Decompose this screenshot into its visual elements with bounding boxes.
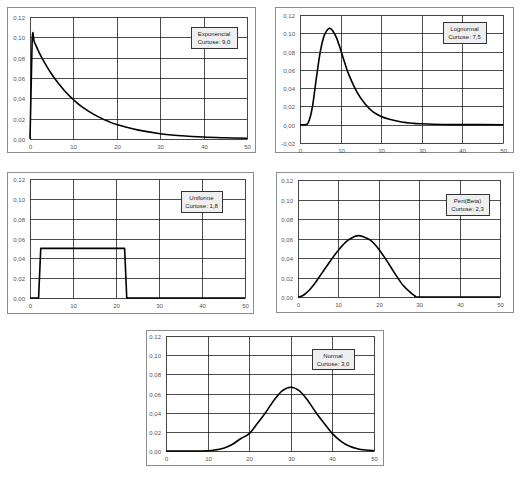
y-tick-label: 0,12 [149, 334, 161, 340]
kurtosis-value: Curtose: 7,5 [448, 34, 481, 40]
x-tick-label: 50 [244, 144, 251, 150]
y-tick-label: 0,08 [281, 217, 293, 223]
y-tick-label: 0,06 [281, 237, 293, 243]
y-tick-label: 0,08 [13, 56, 25, 62]
kurtosis-value: Curtose: 1,8 [185, 203, 218, 209]
y-tick-label: 0,04 [13, 256, 25, 262]
annotation-box: LognormalCurtose: 7,5 [444, 23, 487, 44]
chart-uniforme: 010203040500,000,020,040,060,080,100,12U… [8, 173, 254, 314]
x-tick-label: 30 [156, 303, 163, 309]
x-tick-label: 50 [371, 456, 378, 462]
y-tick-label: 0,10 [13, 197, 25, 203]
y-tick-label: 0,06 [283, 68, 295, 74]
x-tick-label: 20 [246, 456, 253, 462]
y-tick-label: 0,00 [283, 123, 295, 129]
y-tick-label: -0,02 [281, 141, 295, 147]
x-tick-label: 10 [335, 302, 342, 308]
x-tick-label: 50 [497, 302, 504, 308]
y-tick-label: 0,00 [13, 137, 25, 143]
x-tick-label: 50 [500, 148, 507, 154]
x-tick-label: 10 [338, 148, 345, 154]
y-tick-label: 0,06 [149, 392, 161, 398]
annotation-box: Pert(Beta)Curtose: 2,3 [447, 195, 490, 216]
y-tick-label: 0,12 [13, 15, 25, 21]
x-tick-label: 50 [242, 303, 249, 309]
x-tick-label: 40 [329, 456, 336, 462]
y-tick-label: 0,02 [281, 276, 293, 282]
chart-exponencial: 010203040500,000,020,040,060,080,100,12E… [8, 8, 256, 153]
y-tick-label: 0,00 [13, 296, 25, 302]
y-tick-label: 0,04 [281, 256, 293, 262]
y-tick-label: 0,06 [13, 76, 25, 82]
x-tick-label: 20 [114, 144, 121, 150]
y-tick-label: 0,00 [149, 449, 161, 455]
distribution-name: Exponencial [198, 31, 231, 37]
y-tick-label: 0,02 [149, 430, 161, 436]
x-tick-label: 20 [378, 148, 385, 154]
distribution-name: Normal [323, 353, 342, 359]
y-tick-label: 0,06 [13, 237, 25, 243]
x-tick-label: 40 [459, 148, 466, 154]
kurtosis-value: Curtose: 3,0 [317, 361, 350, 367]
distribution-name: Uniforme [189, 195, 214, 201]
y-tick-label: 0,10 [13, 35, 25, 41]
x-tick-label: 10 [205, 456, 212, 462]
y-tick-label: 0,02 [13, 276, 25, 282]
chart-lognormal: 01020304050-0,020,000,020,040,060,080,10… [276, 8, 514, 155]
chart-pert-beta: 010203040500,000,020,040,060,080,100,12P… [277, 173, 514, 313]
x-tick-label: 30 [157, 144, 164, 150]
x-tick-label: 30 [416, 302, 423, 308]
y-tick-label: 0,10 [283, 31, 295, 37]
y-tick-label: 0,08 [149, 372, 161, 378]
distribution-name: Lognormal [450, 26, 478, 32]
x-tick-label: 20 [113, 303, 120, 309]
y-tick-label: 0,12 [281, 178, 293, 184]
y-tick-label: 0,04 [13, 96, 25, 102]
chart-normal: 010203040500,000,020,040,060,080,100,12N… [147, 331, 384, 466]
y-tick-label: 0,02 [283, 104, 295, 110]
kurtosis-comparison-figure: 010203040500,000,020,040,060,080,100,12E… [0, 0, 520, 478]
x-tick-label: 40 [199, 303, 206, 309]
y-tick-label: 0,12 [13, 177, 25, 183]
x-tick-label: 10 [70, 303, 77, 309]
y-tick-label: 0,02 [13, 117, 25, 123]
x-tick-label: 30 [419, 148, 426, 154]
y-tick-label: 0,04 [149, 411, 161, 417]
distribution-name: Pert(Beta) [454, 198, 481, 204]
y-tick-label: 0,12 [283, 13, 295, 19]
x-tick-label: 20 [376, 302, 383, 308]
x-tick-label: 10 [70, 144, 77, 150]
y-tick-label: 0,08 [13, 217, 25, 223]
y-tick-label: 0,10 [281, 198, 293, 204]
x-tick-label: 30 [288, 456, 295, 462]
x-tick-label: 40 [457, 302, 464, 308]
x-tick-label: 40 [201, 144, 208, 150]
annotation-box: ExponencialCurtose: 9,0 [192, 28, 238, 49]
y-tick-label: 0,04 [283, 86, 295, 92]
annotation-box: UniformeCurtose: 1,8 [182, 192, 223, 213]
y-tick-label: 0,08 [283, 50, 295, 56]
y-tick-label: 0,00 [281, 295, 293, 301]
annotation-box: NormalCurtose: 3,0 [313, 350, 355, 370]
kurtosis-value: Curtose: 2,3 [451, 206, 484, 212]
chart-frame [277, 173, 514, 313]
y-tick-label: 0,10 [149, 353, 161, 359]
kurtosis-value: Curtose: 9,0 [198, 39, 231, 45]
